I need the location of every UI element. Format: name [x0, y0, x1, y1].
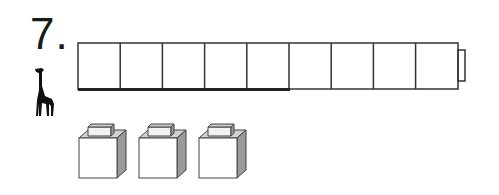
- cube-2: [139, 124, 186, 178]
- cube-3: [199, 124, 246, 178]
- cube-1: [79, 124, 126, 178]
- cubes-group: [0, 0, 499, 195]
